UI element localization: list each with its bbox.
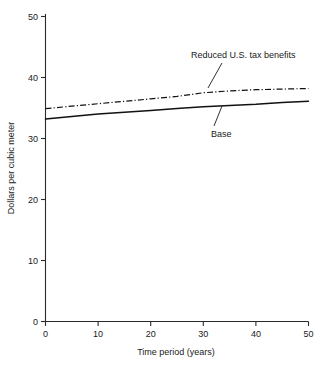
y-tick-label-40: 40 [28, 73, 38, 83]
annotation-reduced-tax-label: Reduced U.S. tax benefits [191, 50, 296, 60]
annotation-base-label: Base [211, 129, 232, 139]
x-axis-title: Time period (years) [137, 347, 215, 357]
y-tick-label-30: 30 [28, 134, 38, 144]
x-tick-label-50: 50 [303, 329, 313, 339]
x-tick-label-0: 0 [43, 329, 48, 339]
series-line-reduced-us-tax-benefits [46, 88, 309, 108]
y-tick-label-10: 10 [28, 256, 38, 266]
series-line-base [46, 101, 309, 119]
x-tick-label-10: 10 [93, 329, 103, 339]
y-tick-label-0: 0 [33, 317, 38, 327]
x-tick-label-30: 30 [198, 329, 208, 339]
y-tick-label-20: 20 [28, 195, 38, 205]
chart-figure: 50 40 30 20 10 0 0 10 20 30 40 50 Time p… [0, 0, 322, 370]
x-tick-label-40: 40 [251, 329, 261, 339]
leader-line-base [214, 106, 222, 126]
x-tick-label-20: 20 [146, 329, 156, 339]
line-chart: 50 40 30 20 10 0 0 10 20 30 40 50 Time p… [0, 0, 322, 370]
y-tick-label-50: 50 [28, 12, 38, 22]
y-axis-title: Dollars per cubic meter [6, 122, 16, 215]
leader-line-reduced-tax [208, 63, 222, 88]
